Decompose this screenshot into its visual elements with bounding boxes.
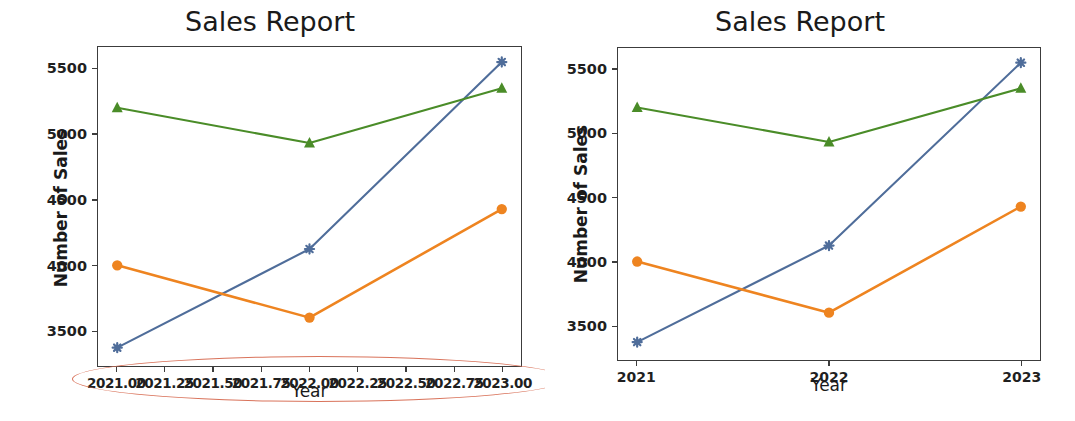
data-point-marker — [1015, 82, 1026, 92]
data-point-marker — [112, 102, 123, 112]
data-point-marker — [304, 312, 314, 322]
plot-area-left — [97, 46, 522, 367]
y-tick-mark — [92, 331, 97, 332]
data-point-marker — [824, 241, 833, 250]
x-tick-mark — [1021, 361, 1022, 366]
x-tick-mark — [357, 367, 358, 372]
data-point-marker — [497, 204, 507, 214]
x-axis-label-right: Year — [617, 375, 1041, 395]
data-point-marker — [305, 244, 314, 253]
x-axis-label-left: Year — [97, 381, 522, 401]
y-tick-label: 5500 — [35, 60, 87, 76]
y-tick-mark — [612, 261, 617, 262]
series-line — [117, 88, 502, 143]
x-tick-mark — [212, 367, 213, 372]
plot-lines-left — [98, 47, 521, 366]
y-tick-mark — [92, 265, 97, 266]
x-tick-mark — [309, 367, 310, 372]
plot-area-right — [617, 47, 1041, 361]
y-tick-mark — [92, 199, 97, 200]
y-tick-label: 3500 — [35, 323, 87, 339]
x-tick-mark — [164, 367, 165, 372]
x-tick-mark — [116, 367, 117, 372]
data-point-marker — [497, 57, 506, 66]
y-axis-label-left: Number of Sales — [51, 98, 71, 318]
x-tick-mark — [454, 367, 455, 372]
x-tick-mark — [261, 367, 262, 372]
data-point-marker — [633, 338, 642, 347]
y-tick-mark — [612, 197, 617, 198]
data-point-marker — [1016, 58, 1025, 67]
series-line — [637, 207, 1021, 313]
x-tick-mark — [405, 367, 406, 372]
data-point-marker — [632, 256, 642, 266]
y-tick-mark — [612, 68, 617, 69]
y-tick-label: 5500 — [555, 61, 607, 77]
x-tick-mark — [636, 361, 637, 366]
plot-lines-right — [618, 48, 1040, 360]
data-point-marker — [824, 308, 834, 318]
data-point-marker — [632, 101, 643, 111]
y-tick-mark — [612, 326, 617, 327]
data-point-marker — [1016, 201, 1026, 211]
y-tick-mark — [92, 68, 97, 69]
data-point-marker — [112, 260, 122, 270]
data-point-marker — [113, 343, 122, 352]
y-tick-mark — [92, 133, 97, 134]
y-axis-label-right: Number of Sales — [571, 94, 591, 314]
y-tick-label: 3500 — [555, 318, 607, 334]
x-tick-mark — [828, 361, 829, 366]
chart-title-right: Sales Report — [560, 6, 1040, 37]
series-line — [637, 88, 1021, 142]
data-point-marker — [496, 82, 507, 92]
x-tick-mark — [502, 367, 503, 372]
figure-canvas: Sales Report 35004000450050005500 2021.0… — [0, 0, 1075, 421]
y-tick-mark — [612, 133, 617, 134]
chart-panel-left: Sales Report 35004000450050005500 2021.0… — [0, 0, 545, 421]
chart-title-left: Sales Report — [0, 6, 540, 37]
series-line — [117, 209, 502, 318]
